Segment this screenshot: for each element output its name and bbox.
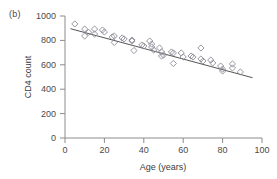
- data-point-marker: [229, 65, 235, 71]
- x-axis-title: Age (years): [140, 162, 187, 172]
- y-tick-label: 400: [41, 84, 56, 94]
- x-tick-label: 40: [139, 145, 149, 155]
- x-tick-label: 0: [62, 145, 67, 155]
- data-point-marker: [200, 58, 206, 64]
- data-point-marker: [156, 45, 162, 51]
- y-axis-tick-labels: 0 200 400 600 800 1000: [36, 11, 56, 143]
- data-point-marker: [198, 45, 204, 51]
- y-axis-title: CD4 count: [23, 55, 33, 98]
- y-axis-ticks: [60, 16, 65, 138]
- y-tick-label: 1000: [36, 11, 56, 21]
- data-point-marker: [178, 50, 184, 56]
- data-point-marker: [229, 61, 235, 67]
- data-point-marker: [170, 60, 176, 66]
- x-tick-label: 80: [218, 145, 228, 155]
- data-point-marker: [101, 29, 107, 35]
- x-tick-label: 60: [178, 145, 188, 155]
- data-point-marker: [72, 21, 78, 27]
- y-tick-label: 600: [41, 60, 56, 70]
- x-tick-label: 20: [99, 145, 109, 155]
- data-point-marker: [131, 47, 137, 53]
- x-axis-tick-labels: 0 20 40 60 80 100: [62, 145, 269, 155]
- x-axis-ticks: [65, 138, 262, 143]
- data-point-group: [72, 21, 244, 75]
- data-point-marker: [99, 27, 105, 33]
- figure-panel-b: (b) 0 200 400 600 800 1000: [0, 0, 277, 179]
- y-tick-label: 200: [41, 109, 56, 119]
- data-point-marker: [198, 56, 204, 62]
- y-tick-label: 0: [51, 133, 56, 143]
- scatter-plot: 0 200 400 600 800 1000 0 20 40 60 80 100…: [0, 0, 277, 179]
- x-tick-label: 100: [254, 145, 269, 155]
- y-tick-label: 800: [41, 35, 56, 45]
